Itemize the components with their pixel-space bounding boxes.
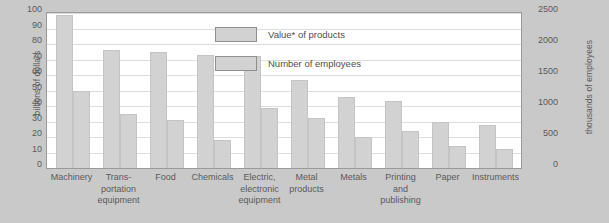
y-tick-right: 2000 — [538, 36, 558, 45]
x-category-label: Printingandpublishing — [377, 172, 424, 220]
y-axis-right-title: thousands of employees — [584, 22, 594, 152]
dual-axis-bar-chart: billions of dollars thousands of employe… — [0, 0, 609, 223]
bar-number-of-employees — [496, 149, 513, 168]
chart-legend: Value* of products Number of employees — [215, 27, 361, 71]
bar-number-of-employees — [402, 131, 419, 168]
x-category-label: Food — [142, 172, 189, 220]
x-category-label-line: electronic — [237, 184, 282, 196]
y-axis-left-ticks: 1009080706050403020100 — [12, 8, 42, 168]
x-category-label-line: and — [378, 184, 423, 196]
plot-area: Value* of products Number of employees — [46, 12, 522, 169]
legend-label-value: Value* of products — [268, 29, 345, 40]
bar-number-of-employees — [449, 146, 466, 168]
x-category-label-line: Printing — [378, 172, 423, 184]
x-category-label: Metals — [330, 172, 377, 220]
y-tick-left: 20 — [32, 129, 42, 138]
x-category-label: Instruments — [471, 172, 520, 220]
x-category-label-line: equipment — [237, 195, 282, 207]
x-category-label-line: Electric, — [237, 172, 282, 184]
y-tick-left: 70 — [32, 51, 42, 60]
x-category-label-line: Chemicals — [190, 172, 235, 184]
x-category-label-line: products — [284, 184, 329, 196]
y-tick-right: 2500 — [538, 5, 558, 14]
legend-item-value: Value* of products — [215, 27, 361, 42]
y-tick-left: 30 — [32, 113, 42, 122]
x-category-label: Machinery — [48, 172, 95, 220]
bar-value-of-products — [56, 15, 73, 168]
y-tick-left: 40 — [32, 98, 42, 107]
y-tick-right: 0 — [553, 160, 558, 169]
bar-number-of-employees — [214, 140, 231, 168]
x-category-label-line: Paper — [425, 172, 470, 184]
bar-value-of-products — [150, 52, 167, 168]
x-category-label-line: equipment — [96, 195, 141, 207]
bar-group — [378, 13, 425, 168]
x-category-label-line: portation — [96, 184, 141, 196]
x-category-label-line: Trans- — [96, 172, 141, 184]
y-tick-right: 500 — [543, 129, 558, 138]
y-tick-left: 50 — [32, 82, 42, 91]
x-category-label-line: Metal — [284, 172, 329, 184]
y-axis-right-ticks: 25002000150010005000 — [526, 88, 558, 168]
x-category-label-line: Food — [143, 172, 188, 184]
x-category-label-line: Machinery — [49, 172, 94, 184]
legend-item-employees: Number of employees — [215, 56, 361, 71]
y-tick-right: 1500 — [538, 67, 558, 76]
x-axis-category-labels: MachineryTrans-portationequipmentFoodChe… — [46, 172, 522, 220]
y-tick-left: 0 — [37, 160, 42, 169]
bar-number-of-employees — [261, 108, 278, 168]
y-tick-left: 80 — [32, 36, 42, 45]
y-tick-right: 1000 — [538, 98, 558, 107]
x-category-label: Metalproducts — [283, 172, 330, 220]
y-tick-left: 10 — [32, 144, 42, 153]
bar-number-of-employees — [308, 118, 325, 168]
bar-number-of-employees — [73, 91, 90, 169]
bar-value-of-products — [479, 125, 496, 168]
bar-value-of-products — [385, 101, 402, 168]
x-category-label-line: Instruments — [472, 172, 519, 184]
x-category-label-line: Metals — [331, 172, 376, 184]
bar-group — [472, 13, 519, 168]
x-category-label: Trans-portationequipment — [95, 172, 142, 220]
x-category-label: Chemicals — [189, 172, 236, 220]
x-category-label: Paper — [424, 172, 471, 220]
bar-group — [425, 13, 472, 168]
legend-swatch-value — [215, 27, 257, 42]
bar-value-of-products — [432, 122, 449, 169]
legend-swatch-employees — [215, 56, 257, 71]
y-tick-left: 90 — [32, 20, 42, 29]
bar-value-of-products — [103, 50, 120, 168]
y-tick-left: 100 — [27, 5, 42, 14]
bar-value-of-products — [291, 80, 308, 168]
y-tick-left: 60 — [32, 67, 42, 76]
bar-number-of-employees — [120, 114, 137, 168]
bar-number-of-employees — [355, 137, 372, 168]
bar-value-of-products — [244, 56, 261, 168]
bar-group — [96, 13, 143, 168]
bar-number-of-employees — [167, 120, 184, 168]
x-category-label-line: publishing — [378, 195, 423, 207]
bar-value-of-products — [338, 97, 355, 168]
x-category-label: Electric,electronicequipment — [236, 172, 283, 220]
bar-group — [49, 13, 96, 168]
bar-group — [143, 13, 190, 168]
legend-label-employees: Number of employees — [268, 58, 361, 69]
bar-value-of-products — [197, 55, 214, 168]
